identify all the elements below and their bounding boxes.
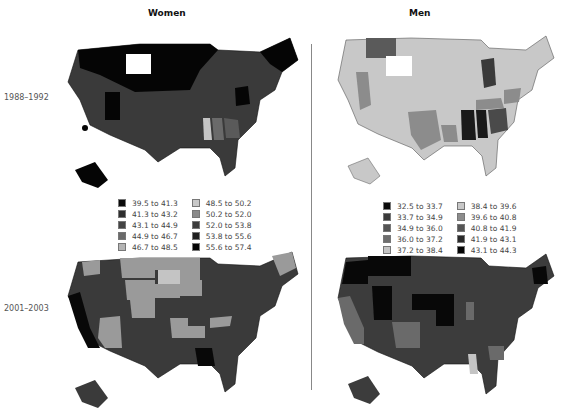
map-men-2001-2003	[336, 248, 564, 414]
legend-item: 33.7 to 34.9	[383, 212, 443, 222]
column-title-women: Women	[148, 8, 186, 18]
legend-item: 34.9 to 36.0	[383, 223, 443, 233]
wyoming-missing	[126, 54, 151, 74]
legend-item: 39.6 to 40.8	[457, 212, 517, 222]
legend-item: 40.8 to 41.9	[457, 223, 517, 233]
map-men-1988-1992	[336, 30, 564, 190]
legend-item: 43.1 to 44.9	[118, 220, 178, 230]
row-label-1988-1992: 1988–1992	[4, 93, 49, 102]
map-women-2001-2003	[60, 248, 300, 414]
legend-item: 36.0 to 37.2	[383, 234, 443, 244]
legend-men: 32.5 to 33.7 38.4 to 39.6 33.7 to 34.9 3…	[383, 201, 516, 255]
wyoming-missing	[386, 56, 412, 76]
legend-item: 32.5 to 33.7	[383, 201, 443, 211]
legend-item: 48.5 to 50.2	[192, 198, 252, 208]
legend-item: 44.9 to 46.7	[118, 231, 178, 241]
legend-item: 38.4 to 39.6	[457, 201, 517, 211]
legend-item: 39.5 to 41.3	[118, 198, 178, 208]
row-label-2001-2003: 2001–2003	[4, 304, 49, 313]
legend-item: 41.9 to 43.1	[457, 234, 517, 244]
legend-item: 41.3 to 43.2	[118, 209, 178, 219]
legend-item: 53.8 to 55.6	[192, 231, 252, 241]
map-women-1988-1992	[60, 30, 300, 190]
legend-item: 52.0 to 53.8	[192, 220, 252, 230]
column-divider	[311, 44, 312, 390]
column-title-men: Men	[409, 8, 430, 18]
legend-women: 39.5 to 41.3 48.5 to 50.2 41.3 to 43.2 5…	[118, 198, 251, 252]
legend-item: 50.2 to 52.0	[192, 209, 252, 219]
